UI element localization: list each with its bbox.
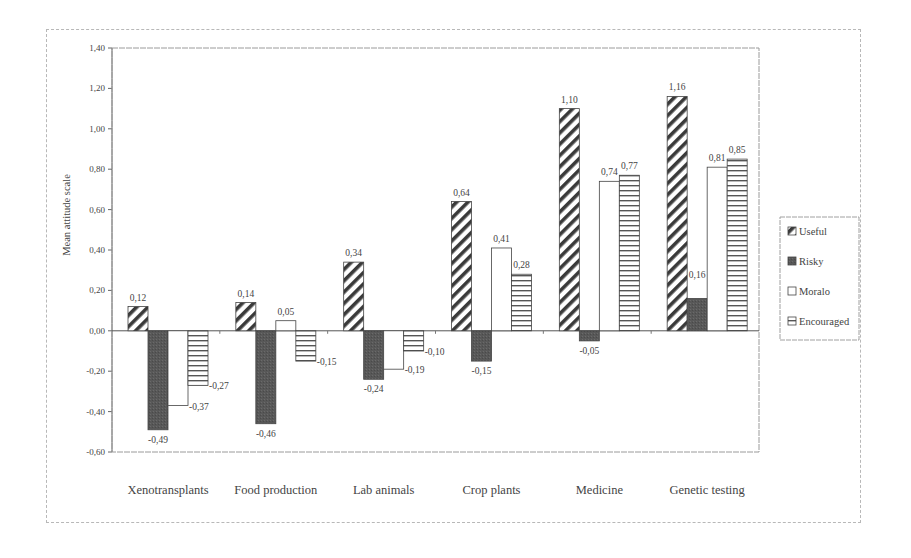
- bar-useful-xenotransplants: [128, 307, 148, 331]
- bar-useful-genetic-testing: [667, 96, 687, 330]
- y-tick-label: 0,20: [89, 285, 105, 295]
- y-tick-label: -0,20: [86, 366, 105, 376]
- value-label: 0,85: [729, 145, 746, 155]
- value-label: 0,28: [513, 260, 530, 270]
- value-label: -0,37: [189, 402, 209, 412]
- legend: UsefulRiskyMoraloEncouraged: [780, 217, 859, 340]
- legend-label-risky: Risky: [799, 256, 824, 267]
- category-labels: XenotransplantsFood productionLab animal…: [127, 483, 745, 497]
- bar-moralo-xenotransplants: [168, 331, 188, 406]
- category-label: Lab animals: [353, 483, 415, 497]
- bar-moralo-food-production: [276, 321, 296, 331]
- bar-risky-xenotransplants: [148, 331, 168, 430]
- category-label: Xenotransplants: [127, 483, 208, 497]
- value-label: -0,46: [256, 429, 276, 439]
- bar-moralo-lab-animals: [384, 331, 404, 369]
- category-label: Medicine: [576, 483, 624, 497]
- bar-chart: 1,401,201,000,800,600,400,200,00-0,20-0,…: [0, 0, 911, 558]
- value-label: -0,27: [209, 381, 229, 391]
- bars: [128, 96, 747, 429]
- legend-label-moralo: Moralo: [799, 286, 830, 297]
- bar-moralo-medicine: [599, 181, 619, 330]
- y-tick-label: 1,40: [89, 43, 105, 53]
- value-label: 0,77: [621, 161, 638, 171]
- value-label: 0,05: [278, 307, 295, 317]
- y-axis: 1,401,201,000,800,600,400,200,00-0,20-0,…: [86, 43, 112, 457]
- bar-encouraged-xenotransplants: [188, 331, 208, 386]
- bar-risky-lab-animals: [364, 331, 384, 379]
- bar-encouraged-medicine: [619, 175, 639, 331]
- y-axis-title: Mean attitude scale: [61, 174, 72, 256]
- y-tick-label: 0,40: [89, 245, 105, 255]
- bar-risky-medicine: [579, 331, 599, 341]
- y-tick-label: 1,00: [89, 124, 105, 134]
- value-label: 1,10: [561, 95, 578, 105]
- value-label: 0,74: [601, 167, 618, 177]
- value-labels: 0,120,140,340,641,101,16-0,49-0,46-0,24-…: [130, 82, 746, 444]
- legend-swatch-useful: [788, 227, 796, 235]
- bar-risky-genetic-testing: [687, 298, 707, 330]
- value-label: 0,16: [689, 270, 706, 280]
- value-label: -0,19: [405, 365, 425, 375]
- bar-useful-medicine: [559, 109, 579, 331]
- category-label: Crop plants: [463, 483, 521, 497]
- y-tick-label: 0,00: [89, 326, 105, 336]
- legend-label-encouraged: Encouraged: [799, 316, 850, 327]
- legend-swatch-encouraged: [788, 317, 796, 325]
- bar-risky-crop-plants: [472, 331, 492, 361]
- bar-useful-food-production: [236, 303, 256, 331]
- value-label: -0,15: [317, 357, 337, 367]
- bar-encouraged-crop-plants: [512, 274, 532, 331]
- value-label: 0,81: [709, 153, 726, 163]
- legend-swatch-risky: [788, 257, 796, 265]
- legend-label-useful: Useful: [799, 226, 827, 237]
- category-label: Food production: [234, 483, 318, 497]
- value-label: -0,24: [364, 384, 384, 394]
- bar-useful-crop-plants: [452, 202, 472, 331]
- category-label: Genetic testing: [670, 483, 746, 497]
- value-label: 0,34: [345, 248, 362, 258]
- bar-moralo-genetic-testing: [707, 167, 727, 331]
- plot-border: [112, 48, 759, 452]
- value-label: 0,12: [130, 293, 147, 303]
- value-label: -0,15: [472, 366, 492, 376]
- bar-risky-food-production: [256, 331, 276, 424]
- bar-encouraged-genetic-testing: [727, 159, 747, 331]
- value-label: -0,10: [425, 347, 445, 357]
- bar-encouraged-food-production: [296, 331, 316, 361]
- y-tick-label: 1,20: [89, 83, 105, 93]
- value-label: -0,49: [148, 435, 168, 445]
- bar-encouraged-lab-animals: [404, 331, 424, 351]
- bar-moralo-crop-plants: [492, 248, 512, 331]
- bar-useful-lab-animals: [344, 262, 364, 331]
- value-label: 1,16: [669, 82, 686, 92]
- legend-swatch-moralo: [788, 287, 796, 295]
- y-tick-label: 0,80: [89, 164, 105, 174]
- value-label: -0,05: [579, 346, 599, 356]
- y-tick-label: -0,40: [86, 407, 105, 417]
- value-label: 0,14: [238, 289, 255, 299]
- plot-area: [112, 48, 759, 452]
- value-label: 0,41: [493, 234, 510, 244]
- y-tick-label: 0,60: [89, 205, 105, 215]
- value-label: 0,64: [453, 188, 470, 198]
- y-tick-label: -0,60: [86, 447, 105, 457]
